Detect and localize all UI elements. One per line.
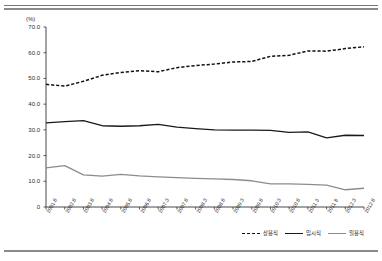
series-line	[46, 47, 364, 86]
plot-area: 010.020.030.040.050.060.070.0 2001.82002…	[0, 0, 382, 261]
y-tick-label: 0	[16, 204, 40, 210]
legend-label: 임시직	[306, 229, 321, 237]
legend-label: 상용직	[263, 229, 278, 237]
legend-label: 일용직	[349, 229, 364, 237]
legend-swatch-icon	[328, 230, 346, 237]
series-line	[46, 166, 364, 190]
legend-item[interactable]: 일용직	[328, 229, 364, 237]
legend-item[interactable]: 상용직	[242, 229, 278, 237]
y-tick-label: 50.0	[16, 75, 40, 81]
y-tick-label: 20.0	[16, 153, 40, 159]
y-tick-label: 60.0	[16, 50, 40, 56]
legend-swatch-icon	[242, 230, 260, 237]
y-tick-label: 30.0	[16, 127, 40, 133]
series-line	[46, 121, 364, 138]
y-tick-label: 40.0	[16, 101, 40, 107]
chart-figure: (%) 010.020.030.040.050.060.070.0 2001.8…	[0, 0, 382, 261]
chart-canvas	[0, 0, 382, 261]
y-tick-label: 10.0	[16, 178, 40, 184]
chart-legend: 상용직임시직일용직	[236, 227, 364, 239]
y-tick-label: 70.0	[16, 24, 40, 30]
legend-swatch-icon	[285, 230, 303, 237]
legend-item[interactable]: 임시직	[285, 229, 321, 237]
